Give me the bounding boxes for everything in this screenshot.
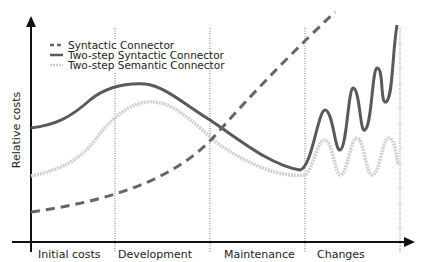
cost-diagram: Syntactic Connector Two-step Syntactic C…	[0, 0, 421, 262]
x-axis-arrow-icon	[404, 237, 415, 247]
legend: Syntactic Connector Two-step Syntactic C…	[46, 39, 225, 73]
phase-label-initial: Initial costs	[38, 248, 101, 261]
legend-two-step-semantic: Two-step Semantic Connector	[67, 59, 225, 71]
y-axis-arrow-icon	[26, 16, 36, 27]
y-axis-label: Relative costs	[10, 92, 23, 169]
phase-label-maintenance: Maintenance	[224, 248, 295, 261]
phase-label-changes: Changes	[317, 248, 365, 261]
phase-label-development: Development	[118, 248, 193, 261]
